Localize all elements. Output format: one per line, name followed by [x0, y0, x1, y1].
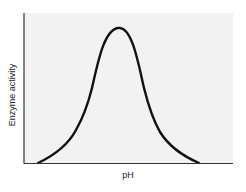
x-axis-label: pH	[122, 170, 134, 180]
y-axis-label: Enzyme activity	[7, 64, 17, 127]
chart	[0, 0, 246, 192]
